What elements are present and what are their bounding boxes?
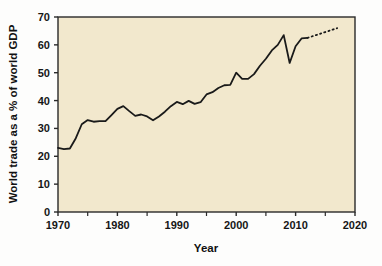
x-tick-label-2000: 2000 [224, 219, 248, 231]
y-tick-label-0: 0 [44, 206, 50, 218]
y-tick-label-10: 10 [38, 178, 50, 190]
y-tick-label-70: 70 [38, 11, 50, 23]
y-axis-title: World trade as a % of world GDP [7, 24, 19, 203]
y-tick-label-40: 40 [38, 95, 50, 107]
x-tick-label-1980: 1980 [105, 219, 129, 231]
x-axis-title: Year [194, 242, 219, 254]
x-tick-label-1970: 1970 [46, 219, 70, 231]
world-trade-gdp-line-chart: 010203040506070 197019801990200020102020… [0, 0, 382, 266]
plot-area-background [58, 17, 355, 212]
x-tick-label-2020: 2020 [343, 219, 367, 231]
y-tick-label-50: 50 [38, 67, 50, 79]
y-tick-label-30: 30 [38, 122, 50, 134]
x-tick-label-2010: 2010 [283, 219, 307, 231]
x-tick-label-1990: 1990 [165, 219, 189, 231]
chart-container: 010203040506070 197019801990200020102020… [0, 0, 382, 266]
y-tick-label-60: 60 [38, 39, 50, 51]
y-tick-label-20: 20 [38, 150, 50, 162]
